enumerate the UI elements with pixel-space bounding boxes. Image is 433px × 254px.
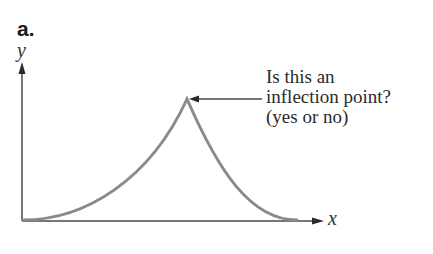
annotation-line-1: Is this an: [266, 67, 391, 87]
annotation-line-3: (yes or no): [266, 107, 391, 127]
figure: a. y x Is this an inflection point? (yes…: [0, 0, 433, 254]
annotation-line-2: inflection point?: [266, 87, 391, 107]
annotation-text: Is this an inflection point? (yes or no): [266, 67, 391, 127]
graph: [0, 0, 433, 254]
annotation-arrow-icon: [189, 96, 199, 103]
x-axis-arrow-icon: [312, 218, 324, 225]
cusp-curve: [23, 99, 297, 220]
y-axis-arrow-icon: [19, 62, 26, 74]
